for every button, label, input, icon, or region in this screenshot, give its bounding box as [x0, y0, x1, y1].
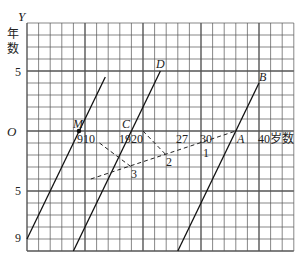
point-label-B: B [259, 70, 267, 84]
point-M-dot [77, 129, 82, 134]
x-tick-20: 20 [131, 132, 143, 146]
point-label-1: 1 [203, 146, 209, 160]
x-tick-19: 19 [119, 132, 131, 146]
y-unit-char-2: 数 [7, 41, 19, 56]
x-tick-10: 10 [83, 132, 95, 146]
y-axis-letter: Y [18, 9, 27, 24]
y-unit-char-1: 年 [7, 27, 19, 41]
point-label-M: M [72, 117, 84, 131]
y-tick-5-above: 5 [15, 65, 21, 79]
x-tick-30: 30 [200, 132, 212, 146]
point-label-2: 2 [166, 155, 172, 169]
x-tick-27: 27 [176, 132, 188, 146]
coordinate-diagram: Y 年 数 O 5 5 9 40岁数 9 10 19 20 27 30 M C … [0, 0, 308, 268]
y-tick-5-below: 5 [15, 184, 21, 198]
point-label-C: C [122, 117, 131, 131]
y-tick-9-below: 9 [15, 231, 21, 245]
x-axis-unit: 40岁数 [258, 131, 294, 146]
point-label-3: 3 [131, 167, 137, 181]
point-label-A: A [236, 132, 245, 146]
line-C-D [73, 71, 160, 251]
origin-label: O [7, 124, 17, 139]
point-label-D: D [155, 57, 165, 71]
